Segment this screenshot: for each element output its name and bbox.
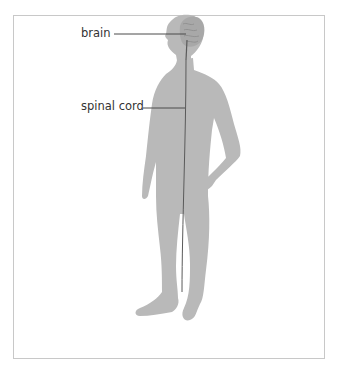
label-brain: brain bbox=[81, 28, 111, 40]
human-body-figure bbox=[0, 0, 338, 369]
label-spinal-cord: spinal cord bbox=[81, 101, 144, 113]
body-silhouette bbox=[136, 15, 241, 321]
